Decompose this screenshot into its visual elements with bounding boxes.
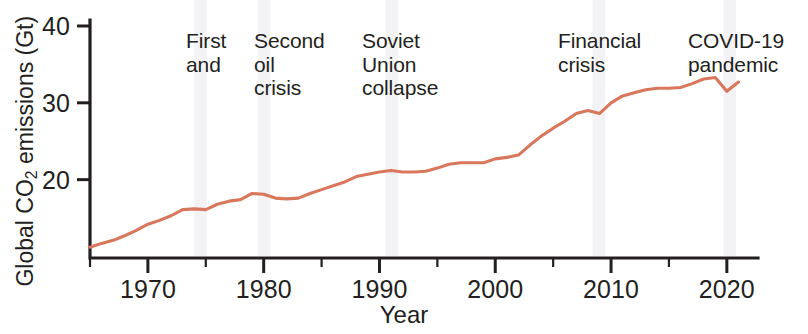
annotation-soviet-union-collapse: Soviet Union collapse — [362, 29, 438, 100]
x-axis-tick-label: 2010 — [583, 277, 639, 302]
annotation-covid-19-pandemic: COVID-19 pandemic — [688, 29, 784, 76]
annotation-financial-crisis: Financial crisis — [558, 29, 641, 76]
emissions-line — [90, 77, 738, 247]
y-axis-tick-label: 40 — [42, 14, 70, 39]
y-axis-tick-label: 30 — [42, 90, 70, 115]
y-axis-label-subscript: 2 — [23, 170, 40, 179]
y-axis-tick-label: 20 — [42, 167, 70, 192]
x-axis-label: Year — [0, 303, 808, 327]
chart-figure: Global CO2 emissions (Gt) Year 403020197… — [0, 0, 808, 334]
annotation-second-oil-crisis: Second oil crisis — [254, 29, 325, 100]
x-axis-tick-label: 1990 — [351, 277, 407, 302]
x-axis-tick-label: 2020 — [699, 277, 755, 302]
x-axis-tick-label: 2000 — [467, 277, 523, 302]
y-axis-label: Global CO2 emissions (Gt) — [14, 17, 39, 287]
annotation-first-and: First and — [186, 29, 226, 76]
y-axis-label-main: Global CO — [12, 179, 38, 286]
y-axis-label-tail: emissions (Gt) — [12, 16, 38, 171]
x-axis-tick-label: 1980 — [236, 277, 292, 302]
x-axis-tick-label: 1970 — [120, 277, 176, 302]
